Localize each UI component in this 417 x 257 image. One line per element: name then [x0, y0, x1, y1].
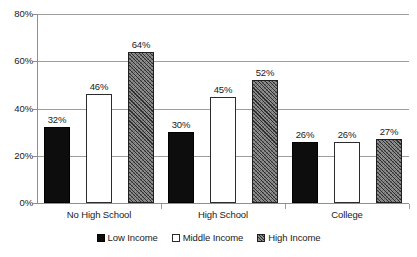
bar-slot: 45% — [210, 14, 236, 203]
bar[interactable] — [210, 97, 236, 203]
x-axis-tick-mark — [161, 204, 162, 209]
bar-slot: 26% — [292, 14, 318, 203]
x-axis-tick-mark — [285, 204, 286, 209]
x-axis-line — [37, 203, 409, 204]
bar-slot: 52% — [252, 14, 278, 203]
x-axis-category-label: No High School — [37, 209, 161, 221]
bar-chart: 0%20%40%60%80% 32%46%64%30%45%52%26%26%2… — [0, 0, 417, 257]
bar-slot: 27% — [376, 14, 402, 203]
y-axis-tick-label: 80% — [1, 9, 33, 19]
bar-value-label: 52% — [256, 68, 275, 78]
y-axis-tick-label: 0% — [1, 198, 33, 208]
legend-swatch-icon — [257, 234, 265, 242]
chart-legend: Low IncomeMiddle IncomeHigh Income — [0, 233, 417, 243]
bar-value-label: 64% — [132, 40, 151, 50]
legend-label: High Income — [268, 233, 320, 243]
bar-slot: 32% — [44, 14, 70, 203]
bar-value-label: 30% — [172, 120, 191, 130]
bar[interactable] — [128, 52, 154, 203]
bar-group: 26%26%27% — [285, 14, 409, 203]
bar[interactable] — [292, 142, 318, 203]
x-axis-category-label: College — [285, 209, 409, 221]
bar-group: 30%45%52% — [161, 14, 285, 203]
legend-label: Middle Income — [183, 233, 243, 243]
legend-label: Low Income — [108, 233, 158, 243]
bar-slot: 46% — [86, 14, 112, 203]
legend-swatch-icon — [97, 234, 105, 242]
x-axis-tick-mark — [409, 204, 410, 209]
legend-swatch-icon — [172, 234, 180, 242]
y-axis-tick-label: 60% — [1, 56, 33, 66]
plot-area: 32%46%64%30%45%52%26%26%27% — [37, 14, 409, 203]
bar[interactable] — [376, 139, 402, 203]
x-axis-category-label: High School — [161, 209, 285, 221]
bar-slot: 26% — [334, 14, 360, 203]
bar-slot: 30% — [168, 14, 194, 203]
legend-item[interactable]: High Income — [257, 233, 320, 243]
bar[interactable] — [168, 132, 194, 203]
bar[interactable] — [86, 94, 112, 203]
y-axis: 0%20%40%60%80% — [0, 0, 33, 257]
bar-value-label: 32% — [48, 115, 67, 125]
y-axis-line — [37, 14, 38, 204]
bar-group: 32%46%64% — [37, 14, 161, 203]
bar[interactable] — [252, 80, 278, 203]
legend-item[interactable]: Middle Income — [172, 233, 243, 243]
bar[interactable] — [334, 142, 360, 203]
legend-item[interactable]: Low Income — [97, 233, 158, 243]
y-axis-tick-label: 20% — [1, 151, 33, 161]
bar-value-label: 45% — [214, 85, 233, 95]
y-axis-tick-label: 40% — [1, 104, 33, 114]
bar-slot: 64% — [128, 14, 154, 203]
bar[interactable] — [44, 127, 70, 203]
bar-value-label: 27% — [380, 127, 399, 137]
bar-value-label: 46% — [90, 82, 109, 92]
bar-value-label: 26% — [338, 130, 357, 140]
bar-value-label: 26% — [296, 130, 315, 140]
